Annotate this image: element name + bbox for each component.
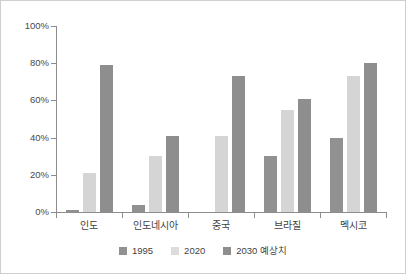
bar[interactable] <box>232 76 245 212</box>
x-axis-category-label: 멕시코 <box>320 219 386 232</box>
x-axis-tick <box>122 213 123 218</box>
legend-label: 2020 <box>184 246 205 256</box>
y-axis-tick-label: 20% <box>3 170 49 180</box>
legend-label: 1995 <box>132 246 153 256</box>
bar[interactable] <box>364 63 377 212</box>
bar[interactable] <box>166 136 179 212</box>
legend-swatch-icon <box>223 247 231 255</box>
x-axis-category-label: 브라질 <box>254 219 320 232</box>
y-axis-tick-label: 100% <box>3 21 49 31</box>
bar-group <box>122 26 188 212</box>
y-axis-tick-label: 80% <box>3 58 49 68</box>
x-axis-category-label: 인도네시아 <box>122 219 188 232</box>
bar[interactable] <box>330 138 343 212</box>
y-axis-tick-label: 0% <box>3 207 49 217</box>
legend-item[interactable]: 2020 <box>171 246 205 256</box>
x-axis-category-label: 중국 <box>188 219 254 232</box>
x-axis-tick <box>254 213 255 218</box>
chart-figure: 0%20%40%60%80%100% 인도인도네시아중국브라질멕시코 19952… <box>0 0 406 274</box>
x-axis-line <box>56 212 387 213</box>
legend-item[interactable]: 1995 <box>119 246 153 256</box>
legend-item[interactable]: 2030 예상치 <box>223 246 287 256</box>
legend-swatch-icon <box>119 247 127 255</box>
y-axis-tick-label-wrap: 0% <box>1 207 49 217</box>
y-axis-tick-label-wrap: 60% <box>1 95 49 105</box>
x-axis-tick <box>188 213 189 218</box>
bar-group <box>56 26 122 212</box>
bar[interactable] <box>132 205 145 212</box>
bar[interactable] <box>264 156 277 212</box>
bar[interactable] <box>281 110 294 212</box>
y-axis-tick-label-wrap: 20% <box>1 170 49 180</box>
x-axis-category-label: 인도 <box>56 219 122 232</box>
y-axis-tick-label-wrap: 40% <box>1 133 49 143</box>
legend-swatch-icon <box>171 247 179 255</box>
y-axis-tick-label-wrap: 80% <box>1 58 49 68</box>
x-axis-tick <box>56 213 57 218</box>
x-axis-tick <box>386 213 387 218</box>
x-axis-tick <box>320 213 321 218</box>
bar-group <box>254 26 320 212</box>
y-axis-tick-label: 40% <box>3 133 49 143</box>
bar[interactable] <box>215 136 228 212</box>
bar[interactable] <box>66 210 79 212</box>
bar-group <box>188 26 254 212</box>
bar[interactable] <box>347 76 360 212</box>
bar[interactable] <box>100 65 113 212</box>
legend-label: 2030 예상치 <box>236 246 287 256</box>
y-axis-tick-label: 60% <box>3 95 49 105</box>
bar[interactable] <box>298 99 311 212</box>
chart-legend: 199520202030 예상치 <box>1 246 405 256</box>
bar[interactable] <box>149 156 162 212</box>
y-axis-tick-label-wrap: 100% <box>1 21 49 31</box>
bar-group <box>320 26 386 212</box>
bar[interactable] <box>83 173 96 212</box>
